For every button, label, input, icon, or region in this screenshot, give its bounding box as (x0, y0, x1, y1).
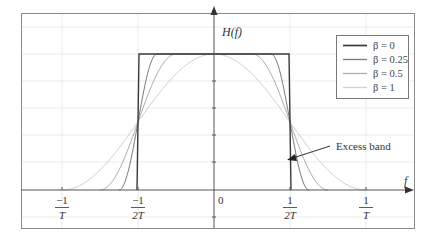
legend-label: β = 0.5 (373, 68, 403, 79)
tick-label-numerator: −1 (56, 194, 68, 206)
tick-label-numerator: −1 (132, 194, 144, 206)
excess-band-annotation: Excess band (287, 140, 391, 161)
tick-label-zero: 0 (218, 194, 224, 206)
legend-label: β = 0 (373, 40, 395, 51)
y-axis-label: H(f) (221, 25, 242, 39)
tick-label-denominator: T (59, 209, 66, 221)
y-axis-arrow-icon (211, 6, 218, 15)
legend-label: β = 1 (373, 82, 395, 93)
x-axis-label: f (404, 174, 409, 188)
tick-label-denominator: 2T (284, 209, 297, 221)
tick-label-denominator: 2T (132, 209, 145, 221)
raised-cosine-chart: H(f) f −1T−12T012T1T β = 0β = 0.25β = 0.… (0, 0, 431, 241)
annotation-text: Excess band (336, 140, 391, 152)
legend: β = 0β = 0.25β = 0.5β = 1 (337, 36, 409, 99)
tick-label-numerator: 1 (363, 194, 369, 206)
legend-label: β = 0.25 (373, 54, 408, 65)
tick-label-numerator: 1 (287, 194, 293, 206)
annotation-arrow-icon (287, 154, 297, 161)
annotation-arrow-line (293, 146, 330, 158)
tick-label-denominator: T (363, 209, 370, 221)
